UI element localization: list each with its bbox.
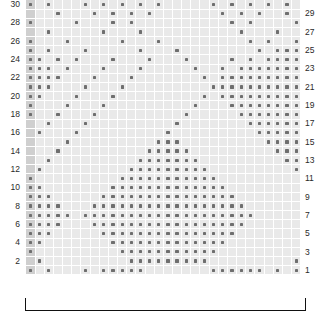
stitch-cell[interactable] [273, 220, 282, 229]
stitch-cell[interactable] [191, 165, 200, 174]
stitch-cell[interactable] [145, 92, 154, 101]
stitch-cell[interactable] [246, 55, 255, 64]
stitch-cell[interactable] [127, 18, 136, 27]
stitch-cell[interactable] [282, 73, 291, 82]
stitch-cell[interactable] [209, 55, 218, 64]
stitch-cell[interactable] [81, 266, 90, 275]
stitch-cell[interactable] [99, 73, 108, 82]
stitch-cell[interactable] [72, 156, 81, 165]
stitch-cell[interactable] [209, 238, 218, 247]
stitch-cell[interactable] [53, 128, 62, 137]
stitch-cell[interactable] [63, 147, 72, 156]
stitch-cell[interactable] [163, 229, 172, 238]
stitch-cell[interactable] [227, 55, 236, 64]
stitch-cell[interactable] [218, 101, 227, 110]
stitch-cell[interactable] [209, 201, 218, 210]
stitch-cell[interactable] [99, 37, 108, 46]
stitch-cell[interactable] [90, 137, 99, 146]
stitch-cell[interactable] [264, 73, 273, 82]
stitch-cell[interactable] [292, 55, 301, 64]
stitch-cell[interactable] [63, 101, 72, 110]
stitch-cell[interactable] [108, 18, 117, 27]
stitch-cell[interactable] [264, 156, 273, 165]
stitch-cell[interactable] [154, 183, 163, 192]
stitch-cell[interactable] [173, 220, 182, 229]
stitch-cell[interactable] [227, 238, 236, 247]
stitch-cell[interactable] [118, 92, 127, 101]
stitch-cell[interactable] [81, 256, 90, 265]
stitch-cell[interactable] [264, 92, 273, 101]
stitch-cell[interactable] [35, 229, 44, 238]
stitch-cell[interactable] [163, 101, 172, 110]
stitch-cell[interactable] [173, 101, 182, 110]
stitch-cell[interactable] [200, 156, 209, 165]
stitch-cell[interactable] [200, 147, 209, 156]
stitch-cell[interactable] [282, 55, 291, 64]
stitch-cell[interactable] [72, 82, 81, 91]
stitch-cell[interactable] [246, 137, 255, 146]
stitch-cell[interactable] [154, 201, 163, 210]
stitch-cell[interactable] [255, 147, 264, 156]
stitch-cell[interactable] [99, 128, 108, 137]
stitch-cell[interactable] [127, 55, 136, 64]
stitch-cell[interactable] [136, 220, 145, 229]
stitch-cell[interactable] [154, 192, 163, 201]
stitch-cell[interactable] [163, 9, 172, 18]
stitch-cell[interactable] [163, 238, 172, 247]
stitch-cell[interactable] [81, 192, 90, 201]
stitch-cell[interactable] [182, 37, 191, 46]
stitch-cell[interactable] [209, 92, 218, 101]
stitch-cell[interactable] [182, 156, 191, 165]
stitch-cell[interactable] [99, 238, 108, 247]
stitch-cell[interactable] [182, 119, 191, 128]
stitch-grid[interactable] [26, 0, 301, 275]
stitch-cell[interactable] [108, 192, 117, 201]
stitch-cell[interactable] [145, 9, 154, 18]
stitch-cell[interactable] [118, 211, 127, 220]
stitch-cell[interactable] [200, 256, 209, 265]
stitch-cell[interactable] [209, 174, 218, 183]
stitch-cell[interactable] [282, 238, 291, 247]
stitch-cell[interactable] [264, 27, 273, 36]
stitch-cell[interactable] [63, 174, 72, 183]
stitch-cell[interactable] [99, 229, 108, 238]
stitch-cell[interactable] [273, 82, 282, 91]
stitch-cell[interactable] [227, 266, 236, 275]
stitch-cell[interactable] [246, 119, 255, 128]
stitch-cell[interactable] [237, 201, 246, 210]
stitch-cell[interactable] [136, 55, 145, 64]
stitch-cell[interactable] [136, 201, 145, 210]
stitch-cell[interactable] [35, 55, 44, 64]
stitch-cell[interactable] [200, 0, 209, 9]
stitch-cell[interactable] [127, 82, 136, 91]
stitch-cell[interactable] [163, 27, 172, 36]
stitch-cell[interactable] [72, 247, 81, 256]
stitch-cell[interactable] [127, 119, 136, 128]
stitch-cell[interactable] [218, 183, 227, 192]
stitch-cell[interactable] [182, 110, 191, 119]
stitch-cell[interactable] [273, 147, 282, 156]
stitch-cell[interactable] [26, 9, 35, 18]
stitch-cell[interactable] [53, 220, 62, 229]
stitch-cell[interactable] [264, 64, 273, 73]
stitch-cell[interactable] [145, 147, 154, 156]
stitch-cell[interactable] [182, 247, 191, 256]
stitch-cell[interactable] [72, 119, 81, 128]
stitch-cell[interactable] [154, 9, 163, 18]
stitch-cell[interactable] [209, 266, 218, 275]
stitch-cell[interactable] [264, 18, 273, 27]
stitch-cell[interactable] [227, 92, 236, 101]
stitch-cell[interactable] [282, 174, 291, 183]
stitch-cell[interactable] [264, 192, 273, 201]
stitch-cell[interactable] [182, 0, 191, 9]
stitch-cell[interactable] [154, 46, 163, 55]
stitch-cell[interactable] [53, 201, 62, 210]
stitch-cell[interactable] [44, 46, 53, 55]
stitch-cell[interactable] [163, 37, 172, 46]
stitch-cell[interactable] [255, 46, 264, 55]
stitch-cell[interactable] [118, 9, 127, 18]
stitch-cell[interactable] [255, 37, 264, 46]
stitch-cell[interactable] [282, 92, 291, 101]
stitch-cell[interactable] [118, 247, 127, 256]
stitch-cell[interactable] [292, 247, 301, 256]
